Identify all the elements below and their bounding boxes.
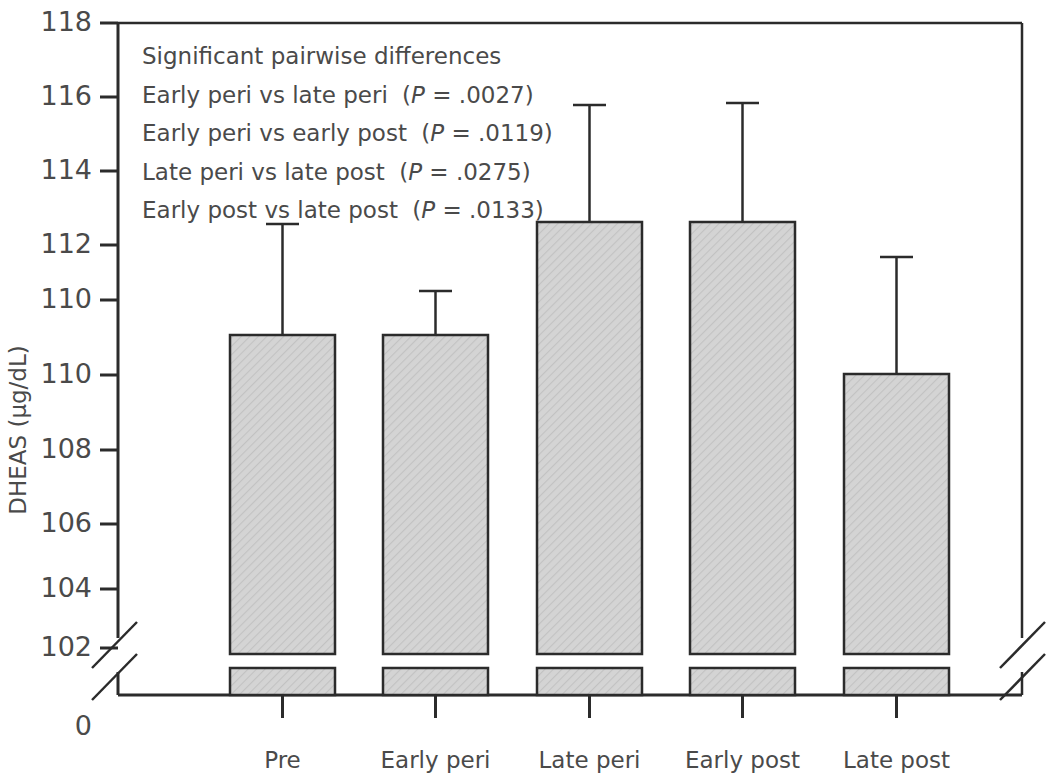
bar-chart-canvas: 118 116 114 112 110 110 108 106 104 102 …	[0, 0, 1055, 777]
y-tick-label-110b: 110	[40, 358, 92, 389]
y-tick-label-106: 106	[40, 507, 92, 538]
annotation-line-2-p-symbol: P	[430, 120, 444, 146]
annotation-line-2-p-value: = .0119)	[444, 120, 553, 146]
annotation-line-1-p-symbol: P	[411, 82, 425, 108]
annotation-line-4-p-symbol: P	[421, 197, 435, 223]
annotation-line-2: Early peri vs early post (P = .0119)	[142, 120, 553, 146]
error-bar-early-peri	[419, 291, 452, 335]
annotation-heading: Significant pairwise differences	[142, 43, 501, 69]
bar-stub-early-peri	[383, 668, 488, 695]
bar-late-peri	[537, 222, 642, 654]
bar-late-post	[844, 374, 949, 654]
bar-pre	[230, 335, 335, 654]
annotation-line-3-paren: (	[399, 159, 408, 185]
error-bar-late-post	[880, 257, 913, 374]
annotation-line-2-pair: Early peri vs early post	[142, 120, 407, 146]
y-tick-label-110a: 110	[40, 283, 92, 314]
bar-early-post	[690, 222, 795, 654]
annotation-line-4-p-value: = .0133)	[435, 197, 544, 223]
x-label-pre: Pre	[264, 747, 301, 773]
bar-early-peri	[383, 335, 488, 654]
x-label-late-post: Late post	[843, 747, 950, 773]
chart-figure: 118 116 114 112 110 110 108 106 104 102 …	[0, 0, 1055, 777]
bar-stub-late-post	[844, 668, 949, 695]
annotation-line-1-pair: Early peri vs late peri	[142, 82, 388, 108]
x-axis-ticks	[283, 695, 897, 718]
axis-break-left	[92, 622, 137, 700]
annotation-line-1-paren: (	[402, 82, 411, 108]
x-axis-labels: Pre Early peri Late peri Early post Late…	[264, 747, 950, 773]
y-tick-label-108: 108	[40, 433, 92, 464]
annotation-line-4: Early post vs late post (P = .0133)	[142, 197, 544, 223]
annotation-line-1: Early peri vs late peri (P = .0027)	[142, 82, 534, 108]
y-tick-label-102: 102	[40, 631, 92, 662]
bar-stub-pre	[230, 668, 335, 695]
bar-stub-early-post	[690, 668, 795, 695]
bars-upper	[230, 222, 949, 654]
bars-lower-stubs	[230, 668, 949, 695]
y-axis-ticks: 118 116 114 112 110 110 108 106 104 102 …	[40, 6, 118, 741]
y-tick-label-112: 112	[40, 228, 92, 259]
y-tick-label-0: 0	[75, 710, 92, 741]
annotation-line-1-p-value: = .0027)	[425, 82, 534, 108]
annotation-line-4-pair: Early post vs late post	[142, 197, 398, 223]
annotation-block: Significant pairwise differences Early p…	[142, 43, 553, 223]
annotation-line-3-p-symbol: P	[408, 159, 422, 185]
error-bar-early-post	[726, 103, 759, 222]
y-axis-title: DHEAS (µg/dL)	[5, 345, 31, 515]
annotation-line-2-paren: (	[421, 120, 430, 146]
y-tick-label-104: 104	[40, 572, 92, 603]
annotation-line-4-paren: (	[412, 197, 421, 223]
y-tick-label-116: 116	[40, 80, 92, 111]
x-label-early-post: Early post	[685, 747, 800, 773]
error-bar-pre	[266, 224, 299, 335]
annotation-line-3-pair: Late peri vs late post	[142, 159, 385, 185]
bar-stub-late-peri	[537, 668, 642, 695]
x-label-late-peri: Late peri	[539, 747, 641, 773]
x-label-early-peri: Early peri	[381, 747, 491, 773]
y-tick-label-114: 114	[40, 154, 92, 185]
error-bar-late-peri	[573, 105, 606, 222]
annotation-line-3: Late peri vs late post (P = .0275)	[142, 159, 531, 185]
y-tick-label-118: 118	[40, 6, 92, 37]
annotation-line-3-p-value: = .0275)	[422, 159, 531, 185]
